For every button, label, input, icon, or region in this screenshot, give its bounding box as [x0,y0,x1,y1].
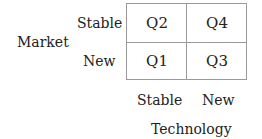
row-axis-title: Market [17,34,69,50]
cell-q2: Q2 [127,4,187,42]
quadrant-grid: Q2 Q4 Q1 Q3 [126,3,247,80]
row-label-new: New [83,53,116,69]
cell-q1: Q1 [127,42,187,80]
cell-q3: Q3 [187,42,247,80]
row-label-stable: Stable [77,15,122,31]
column-label-new: New [202,92,235,108]
column-label-stable: Stable [137,92,182,108]
column-axis-title: Technology [151,121,232,137]
cell-q4: Q4 [187,4,247,42]
